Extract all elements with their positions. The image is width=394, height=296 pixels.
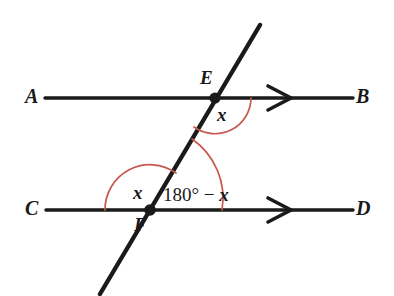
vertex-dot-e (209, 92, 220, 103)
endpoint-label-b: B (356, 86, 369, 106)
endpoint-label-a: A (25, 86, 38, 106)
angle-label-at-e: x (217, 105, 227, 124)
angle-label-at-f-left: x (133, 183, 143, 202)
arrowheads-group (268, 86, 291, 222)
endpoint-label-d: D (356, 198, 370, 218)
lines-group (45, 25, 353, 294)
angle-variable: x (219, 184, 229, 205)
vertex-label-e: E (200, 68, 213, 87)
transversal-line (100, 25, 260, 294)
endpoint-label-c: C (25, 198, 38, 218)
angle-minus-sign: − (199, 184, 219, 205)
angle-degrees-part: 180° (163, 184, 199, 205)
angle-label-at-f-right: 180° − x (163, 185, 229, 204)
geometry-diagram: A B C D E F x x 180° − x (0, 0, 394, 296)
diagram-canvas (0, 0, 394, 296)
vertex-label-f: F (134, 215, 147, 234)
